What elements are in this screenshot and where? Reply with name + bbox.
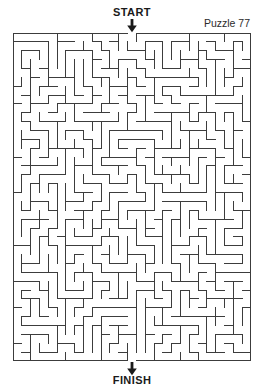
maze-grid xyxy=(13,33,251,361)
maze-walls xyxy=(13,33,251,361)
puzzle-number-label: Puzzle 77 xyxy=(204,17,250,29)
maze-wall-path xyxy=(13,33,251,361)
start-arrow-icon xyxy=(125,19,139,33)
finish-label: FINISH xyxy=(0,374,264,386)
